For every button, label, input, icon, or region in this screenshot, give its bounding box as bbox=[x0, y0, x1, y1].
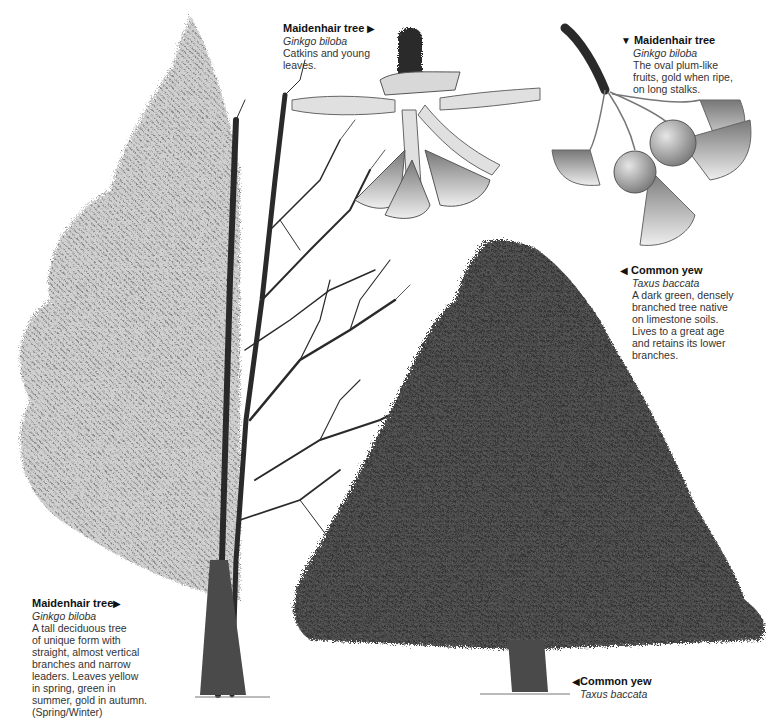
caption-description: A dark green, densely branched tree nati… bbox=[620, 289, 770, 361]
caption-scientific-name: Taxus baccata bbox=[572, 688, 692, 700]
caption-ginkgo-tree: Maidenhair tree▶ Ginkgo biloba A tall de… bbox=[32, 597, 192, 718]
caption-description: Catkins and young leaves. bbox=[283, 47, 403, 71]
caption-title: Maidenhair tree bbox=[634, 34, 715, 46]
caption-title: Common yew bbox=[631, 264, 703, 276]
caption-scientific-name: Ginkgo biloba bbox=[32, 610, 192, 622]
pointer-right-icon: ▶ bbox=[367, 23, 375, 35]
caption-yew-tree: ◀Common yew Taxus baccata bbox=[572, 675, 692, 700]
caption-title: Maidenhair tree bbox=[32, 597, 113, 609]
caption-scientific-name: Taxus baccata bbox=[620, 277, 770, 289]
caption-title: Maidenhair tree bbox=[283, 22, 364, 34]
caption-description: The oval plum-like fruits, gold when rip… bbox=[621, 59, 771, 95]
caption-scientific-name: Ginkgo biloba bbox=[283, 35, 403, 47]
pointer-down-icon: ▼ bbox=[621, 35, 631, 47]
caption-description: A tall deciduous tree of unique form wit… bbox=[32, 622, 192, 718]
pointer-left-icon: ◀ bbox=[572, 676, 580, 688]
caption-yew-detail: ◀Common yew Taxus baccata A dark green, … bbox=[620, 264, 770, 361]
caption-ginkgo-fruits: ▼Maidenhair tree Ginkgo biloba The oval … bbox=[621, 34, 771, 95]
yew-trunk bbox=[508, 640, 548, 692]
pointer-left-icon: ◀ bbox=[620, 265, 628, 277]
caption-ginkgo-catkins: Maidenhair tree▶ Ginkgo biloba Catkins a… bbox=[283, 22, 403, 71]
ginkgo-tree-foliage bbox=[20, 15, 240, 600]
caption-scientific-name: Ginkgo biloba bbox=[621, 47, 771, 59]
caption-title: Common yew bbox=[580, 675, 652, 687]
pointer-right-icon: ▶ bbox=[113, 598, 121, 610]
